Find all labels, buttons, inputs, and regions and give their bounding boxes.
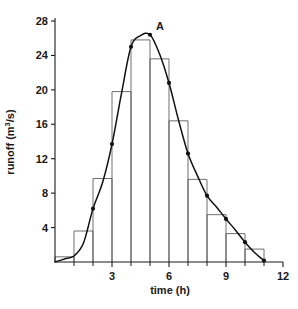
y-axis-title-tail: /s)	[4, 109, 16, 122]
y-axis-tick-label: 4	[42, 222, 49, 234]
x-axis-tick-label: 3	[109, 270, 115, 282]
y-axis-tick-label: 16	[36, 118, 48, 130]
data-point-marker	[148, 33, 152, 37]
x-axis-title: time (h)	[150, 284, 190, 296]
x-axis-tick-label: 6	[166, 270, 172, 282]
data-point-marker	[224, 217, 228, 221]
data-point-marker	[91, 207, 95, 211]
y-axis-tick-label: 12	[36, 153, 48, 165]
chart-figure: 481216202428 36912 A runoff (m3/s) time …	[0, 0, 298, 309]
x-axis-tick-label: 9	[223, 270, 229, 282]
peak-annotation-label: A	[156, 20, 164, 32]
data-point-marker	[243, 240, 247, 244]
svg-text:runoff (m3/s): runoff (m3/s)	[3, 109, 16, 175]
annotations-layer: A	[156, 20, 164, 32]
y-axis-tick-label: 28	[36, 15, 48, 27]
runoff-hydrograph-chart: 481216202428 36912 A runoff (m3/s) time …	[0, 0, 298, 309]
y-axis-tick-label: 24	[36, 49, 49, 61]
data-point-marker	[110, 142, 114, 146]
data-point-marker	[186, 151, 190, 155]
data-point-marker	[167, 81, 171, 85]
data-point-marker	[129, 45, 133, 49]
y-axis-title-base: runoff (m	[4, 126, 16, 174]
y-axis-title: runoff (m3/s)	[3, 109, 16, 175]
y-axis-tick-label: 20	[36, 84, 48, 96]
data-point-marker	[205, 194, 209, 198]
x-axis-tick-label: 12	[277, 270, 289, 282]
y-axis-tick-label: 8	[42, 187, 48, 199]
